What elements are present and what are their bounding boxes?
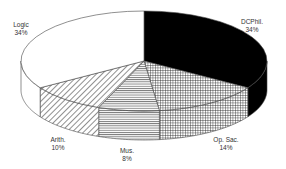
slice-label-name: Arith. xyxy=(38,136,78,144)
slice-label-percent: 8% xyxy=(107,155,147,163)
pie-top-slices xyxy=(21,11,267,111)
slice-label-name: Mus. xyxy=(107,147,147,155)
slice-label-percent: 10% xyxy=(38,144,78,152)
slice-label: Logic34% xyxy=(1,21,41,37)
slice-label: DCPhil.34% xyxy=(232,18,272,34)
slice-label-name: Logic xyxy=(1,21,41,29)
slice-label-percent: 34% xyxy=(1,29,41,37)
slice-label-percent: 14% xyxy=(206,144,246,152)
slice-label: Mus.8% xyxy=(107,147,147,163)
slice-label-percent: 34% xyxy=(232,26,272,34)
slice-label-name: Op. Sac. xyxy=(206,136,246,144)
slice-label: Arith.10% xyxy=(38,136,78,152)
slice-label: Op. Sac.14% xyxy=(206,136,246,152)
slice-label-name: DCPhil. xyxy=(232,18,272,26)
pie-side-mus xyxy=(99,107,160,140)
